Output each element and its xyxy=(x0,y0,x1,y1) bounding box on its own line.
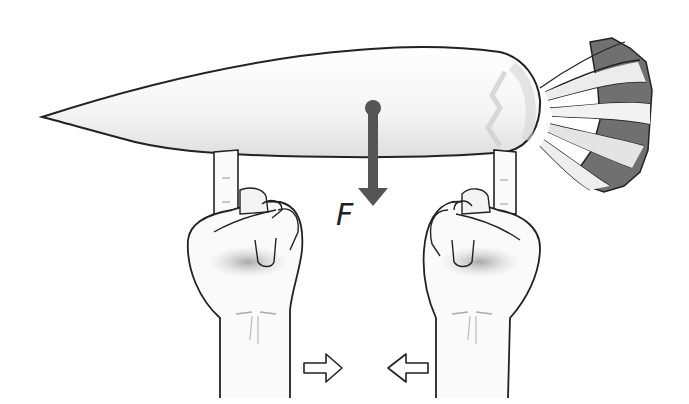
right-hand xyxy=(424,150,540,398)
carrot xyxy=(42,47,540,157)
force-label: F xyxy=(336,200,353,230)
left-hand xyxy=(188,150,303,398)
right-arrow-icon xyxy=(304,354,342,382)
carrot-leaves xyxy=(540,38,652,192)
left-arrow-icon xyxy=(388,354,428,382)
